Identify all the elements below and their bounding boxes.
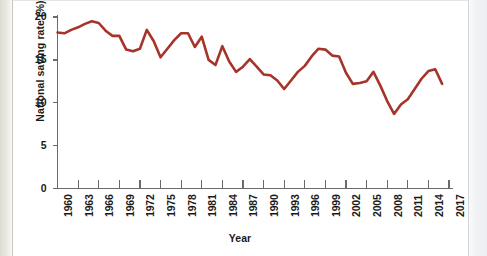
x-tick-marks xyxy=(58,180,450,189)
y-tick-label-20: 20 xyxy=(25,10,47,22)
x-tick-label-1972: 1972 xyxy=(144,194,156,217)
x-tick-label-1987: 1987 xyxy=(247,194,259,217)
x-tick-label-2011: 2011 xyxy=(412,195,424,217)
x-tick-label-1966: 1966 xyxy=(103,194,115,217)
x-tick-label-1981: 1981 xyxy=(206,194,218,217)
data-series-layer xyxy=(58,21,443,114)
y-tick-label-10: 10 xyxy=(25,96,47,108)
x-tick-label-1999: 1999 xyxy=(330,194,342,217)
y-tick-marks xyxy=(53,17,58,189)
y-tick-label-15: 15 xyxy=(25,53,47,65)
series-line-0 xyxy=(58,21,443,114)
x-tick-label-1996: 1996 xyxy=(309,194,321,217)
x-tick-label-1975: 1975 xyxy=(165,194,177,217)
axis-layer xyxy=(58,15,454,189)
figure-container: National saving rate (%) Year 05101520 1… xyxy=(0,0,487,256)
x-tick-label-1990: 1990 xyxy=(268,194,280,217)
x-tick-label-1969: 1969 xyxy=(124,194,136,217)
y-tick-label-0: 0 xyxy=(25,182,47,194)
x-tick-label-2008: 2008 xyxy=(392,194,404,217)
y-tick-label-5: 5 xyxy=(25,139,47,151)
x-tick-label-2002: 2002 xyxy=(350,194,362,217)
x-tick-label-1993: 1993 xyxy=(289,194,301,217)
x-tick-label-2017: 2017 xyxy=(454,194,466,217)
x-tick-label-1963: 1963 xyxy=(83,194,95,217)
x-tick-label-1960: 1960 xyxy=(62,194,74,217)
x-tick-label-1984: 1984 xyxy=(227,194,239,217)
x-tick-label-2014: 2014 xyxy=(433,194,445,217)
x-tick-label-2005: 2005 xyxy=(371,194,383,217)
line-chart-plot xyxy=(0,0,487,256)
x-tick-label-1978: 1978 xyxy=(186,194,198,217)
